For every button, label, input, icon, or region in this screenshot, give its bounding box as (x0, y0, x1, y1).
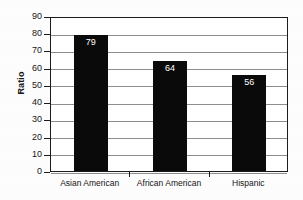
y-axis-tick-label: 20 (24, 133, 42, 142)
y-axis-tick (44, 51, 50, 52)
bar-chart: Ratio 796456 0102030405060708090 Asian A… (0, 0, 303, 200)
y-axis-tick (44, 69, 50, 70)
x-axis-category-label: African American (129, 178, 208, 189)
y-axis-tick (44, 86, 50, 87)
bar: 56 (232, 75, 266, 171)
y-axis-tick-label: 60 (24, 64, 42, 73)
y-axis-tick-label: 80 (24, 29, 42, 38)
x-axis-tick (209, 172, 210, 177)
y-axis-tick (44, 120, 50, 121)
y-axis-tick-label: 0 (24, 167, 42, 176)
bar: 79 (74, 35, 108, 171)
y-axis-tick (44, 172, 50, 173)
y-axis-tick (44, 103, 50, 104)
y-axis-tick-label: 50 (24, 81, 42, 90)
y-axis-tick-label: 90 (24, 12, 42, 21)
bar-value-label: 79 (74, 37, 108, 47)
y-axis-tick-label: 30 (24, 115, 42, 124)
bar-value-label: 64 (153, 63, 187, 73)
y-axis-tick (44, 34, 50, 35)
y-axis-tick (44, 17, 50, 18)
y-axis-tick (44, 138, 50, 139)
gridline (51, 173, 287, 174)
x-axis-category-label: Hispanic (209, 178, 288, 189)
y-axis-tick-label: 70 (24, 46, 42, 55)
plot-area: 796456 (50, 17, 288, 172)
bar: 64 (153, 61, 187, 171)
x-axis-tick (129, 172, 130, 177)
y-axis-tick (44, 155, 50, 156)
x-axis-category-label: Asian American (50, 178, 129, 189)
y-axis-tick-label: 40 (24, 98, 42, 107)
y-axis-tick-label: 10 (24, 150, 42, 159)
bar-value-label: 56 (232, 77, 266, 87)
